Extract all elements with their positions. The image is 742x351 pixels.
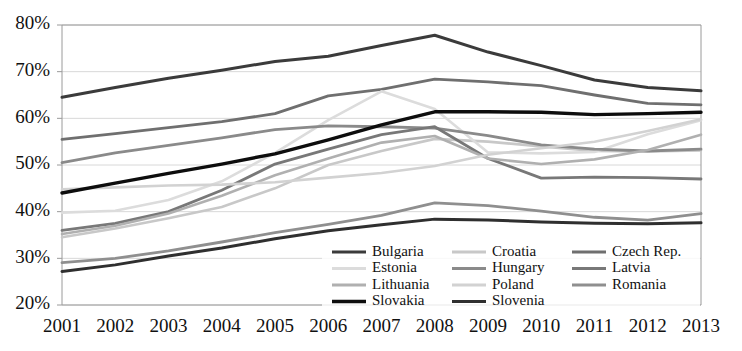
x-tick-label: 2002 bbox=[96, 315, 134, 336]
legend-label: Estonia bbox=[372, 259, 417, 275]
legend-label: Croatia bbox=[492, 243, 536, 259]
legend-label: Hungary bbox=[492, 259, 545, 275]
legend-label: Latvia bbox=[612, 259, 651, 275]
chart-legend: BulgariaEstoniaLithuaniaSlovakiaCroatiaH… bbox=[322, 243, 700, 315]
data-series-lines bbox=[62, 35, 701, 271]
x-tick-label: 2004 bbox=[203, 315, 242, 336]
x-tick-label: 2003 bbox=[150, 315, 188, 336]
line-chart: 80%70%60%50%40%30%20% 200120022003200420… bbox=[0, 0, 742, 351]
y-tick-label: 30% bbox=[15, 246, 50, 267]
legend-label: Lithuania bbox=[372, 276, 430, 292]
x-tick-label: 2010 bbox=[522, 315, 560, 336]
legend-label: Czech Rep. bbox=[612, 243, 681, 259]
x-tick-label: 2009 bbox=[469, 315, 507, 336]
x-tick-label: 2007 bbox=[363, 315, 401, 336]
series-line-czech-rep bbox=[62, 79, 701, 139]
y-tick-label: 40% bbox=[15, 199, 50, 220]
y-axis-tick-labels: 80%70%60%50%40%30%20% bbox=[15, 12, 62, 313]
legend-label: Bulgaria bbox=[372, 243, 424, 259]
legend-label: Slovakia bbox=[372, 292, 425, 308]
series-line-slovakia bbox=[62, 112, 701, 193]
x-axis-tick-labels: 2001200220032004200520062007200820092010… bbox=[43, 315, 720, 336]
x-tick-label: 2011 bbox=[576, 315, 613, 336]
x-tick-label: 2005 bbox=[256, 315, 294, 336]
legend-label: Poland bbox=[492, 276, 534, 292]
chart-canvas: 80%70%60%50%40%30%20% 200120022003200420… bbox=[0, 0, 742, 351]
x-tick-label: 2012 bbox=[629, 315, 667, 336]
x-tick-label: 2008 bbox=[416, 315, 454, 336]
y-tick-label: 70% bbox=[15, 59, 50, 80]
y-tick-label: 80% bbox=[15, 12, 50, 33]
legend-label: Slovenia bbox=[492, 292, 545, 308]
legend-label: Romania bbox=[612, 276, 666, 292]
x-tick-label: 2013 bbox=[682, 315, 720, 336]
x-tick-label: 2001 bbox=[43, 315, 81, 336]
x-tick-label: 2006 bbox=[309, 315, 347, 336]
y-tick-label: 60% bbox=[15, 106, 50, 127]
y-tick-label: 50% bbox=[15, 152, 50, 173]
y-tick-label: 20% bbox=[15, 292, 50, 313]
